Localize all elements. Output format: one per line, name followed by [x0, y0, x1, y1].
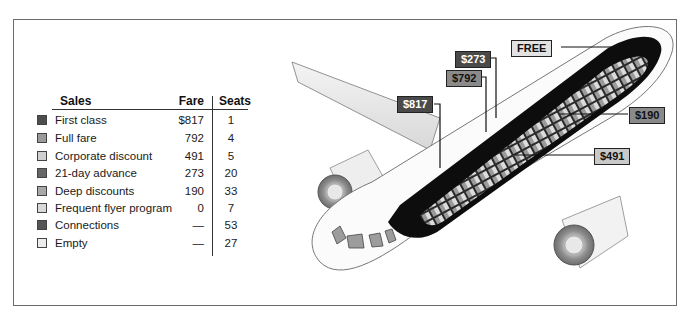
legend-row: First class $817 1 [36, 112, 251, 129]
swatch-frequent-flyer [37, 203, 47, 213]
swatch-21-day-advance [37, 168, 47, 178]
row-seats: 33 [218, 185, 244, 197]
row-fare: 0 [164, 202, 204, 214]
header-sales: Sales [60, 94, 91, 108]
swatch-full-fare [37, 133, 47, 143]
legend-row: Frequent flyer program 0 7 [36, 200, 251, 217]
header-fare: Fare [176, 94, 204, 108]
legend-row: Empty — 27 [36, 235, 251, 252]
row-fare: — [164, 237, 204, 249]
row-label: First class [55, 114, 107, 126]
row-label: Full fare [55, 132, 97, 144]
swatch-deep-discounts [37, 186, 47, 196]
legend-row: Connections — 53 [36, 217, 251, 234]
swatch-empty [37, 238, 47, 248]
engine-right [554, 196, 628, 268]
callout-273: $273 [455, 51, 491, 68]
swatch-first-class [37, 115, 47, 125]
row-fare: — [164, 219, 204, 231]
row-fare: 491 [164, 150, 204, 162]
callout-817: $817 [397, 96, 433, 113]
row-fare: 190 [164, 185, 204, 197]
row-seats: 5 [218, 150, 244, 162]
row-seats: 4 [218, 132, 244, 144]
row-fare: 273 [164, 167, 204, 179]
row-seats: 53 [218, 219, 244, 231]
swatch-connections [37, 220, 47, 230]
row-label: 21-day advance [55, 167, 137, 179]
legend-row: Corporate discount 491 5 [36, 148, 251, 165]
row-fare: 792 [164, 132, 204, 144]
callout-free: FREE [511, 40, 552, 57]
row-label: Frequent flyer program [55, 202, 172, 214]
header-seats: Seats [219, 94, 251, 108]
row-fare: $817 [164, 114, 204, 126]
row-label: Corporate discount [55, 150, 152, 162]
callout-792: $792 [446, 70, 482, 87]
legend-row: Full fare 792 4 [36, 130, 251, 147]
row-seats: 1 [218, 114, 244, 126]
row-seats: 27 [218, 237, 244, 249]
swatch-corporate-discount [37, 151, 47, 161]
legend-row: 21-day advance 273 20 [36, 165, 251, 182]
row-label: Empty [55, 237, 88, 249]
header-divider [52, 109, 248, 110]
row-label: Deep discounts [55, 185, 134, 197]
callout-190: $190 [629, 107, 665, 124]
legend-row: Deep discounts 190 33 [36, 183, 251, 200]
row-label: Connections [55, 219, 119, 231]
row-seats: 20 [218, 167, 244, 179]
callout-491: $491 [594, 148, 630, 165]
row-seats: 7 [218, 202, 244, 214]
